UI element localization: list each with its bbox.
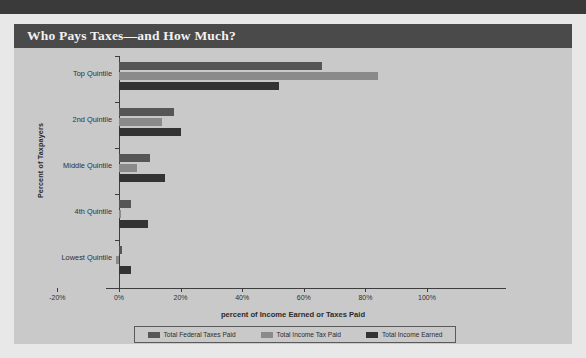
y-tick — [115, 194, 120, 195]
x-tick — [304, 288, 305, 292]
bar — [119, 62, 322, 70]
category-group: Middle Quintile — [14, 148, 572, 194]
x-tick-label: -20% — [49, 294, 65, 301]
chart-title-bar: Who Pays Taxes—and How Much? — [14, 24, 572, 48]
page-top-band — [0, 0, 586, 14]
x-tick — [57, 288, 58, 292]
bar — [119, 72, 378, 80]
x-tick-label: 20% — [174, 294, 188, 301]
bar — [119, 108, 174, 116]
x-tick — [119, 288, 120, 292]
bar — [119, 210, 121, 218]
x-tick — [365, 288, 366, 292]
y-tick — [115, 240, 120, 241]
y-tick-label: 2nd Quintile — [14, 115, 112, 124]
y-tick — [115, 102, 120, 103]
legend-label: Total Income Earned — [382, 331, 442, 338]
x-tick — [242, 288, 243, 292]
bar — [119, 118, 162, 126]
chart-panel: Percent of Taxpayers Top Quintile2nd Qui… — [14, 48, 572, 344]
bar — [119, 128, 181, 136]
plot-area: Percent of Taxpayers Top Quintile2nd Qui… — [14, 48, 572, 298]
x-tick-label: 80% — [358, 294, 372, 301]
legend-swatch — [366, 332, 378, 338]
x-tick-label: 0% — [114, 294, 124, 301]
bar — [119, 82, 279, 90]
category-group: Top Quintile — [14, 56, 572, 102]
y-tick-label: 4th Quintile — [14, 207, 112, 216]
category-group: 4th Quintile — [14, 194, 572, 240]
y-tick-label: Middle Quintile — [14, 161, 112, 170]
x-axis-title: percent of Income Earned or Taxes Paid — [14, 310, 572, 319]
y-tick — [115, 56, 120, 57]
legend-swatch — [261, 332, 273, 338]
bar — [116, 256, 119, 264]
bar — [119, 200, 131, 208]
legend-label: Total Income Tax Paid — [277, 331, 341, 338]
y-tick-label: Lowest Quintile — [14, 253, 112, 262]
bar — [119, 164, 137, 172]
chart-legend: Total Federal Taxes PaidTotal Income Tax… — [134, 326, 456, 343]
x-tick — [181, 288, 182, 292]
x-tick — [427, 288, 428, 292]
x-tick-label: 100% — [418, 294, 436, 301]
legend-item: Total Income Earned — [366, 331, 442, 338]
bar — [119, 220, 148, 228]
legend-item: Total Federal Taxes Paid — [148, 331, 236, 338]
bar — [119, 154, 150, 162]
x-axis-line — [106, 288, 506, 289]
x-tick-label: 60% — [297, 294, 311, 301]
y-tick — [115, 148, 120, 149]
bar — [119, 174, 165, 182]
legend-label: Total Federal Taxes Paid — [164, 331, 236, 338]
legend-item: Total Income Tax Paid — [261, 331, 341, 338]
legend-swatch — [148, 332, 160, 338]
category-group: 2nd Quintile — [14, 102, 572, 148]
bar — [119, 246, 122, 254]
x-tick-label: 40% — [235, 294, 249, 301]
bar — [119, 266, 131, 274]
category-group: Lowest Quintile — [14, 240, 572, 286]
y-tick-label: Top Quintile — [14, 69, 112, 78]
page-title: Who Pays Taxes—and How Much? — [14, 28, 236, 44]
